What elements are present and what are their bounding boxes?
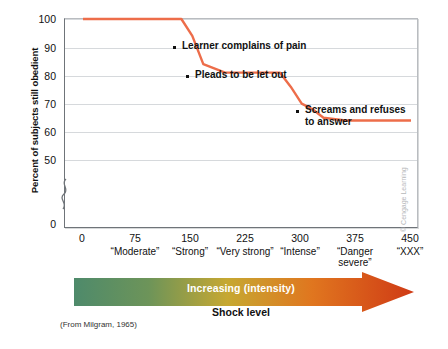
arrow-label-increasing: Increasing (intensity) bbox=[64, 282, 418, 294]
source-citation: (From Milgram, 1965) bbox=[60, 320, 137, 329]
annotation-marker-3 bbox=[296, 110, 299, 113]
annotation-pleads-to-be-let-out: Pleads to be let out bbox=[195, 69, 287, 81]
y-tick-0: 0 bbox=[20, 218, 56, 230]
annotation-screams-and-refuses: Screams and refuses to answer bbox=[305, 104, 406, 127]
y-tick-60: 60 bbox=[20, 126, 56, 138]
y-tick-80: 80 bbox=[20, 70, 56, 82]
y-tick-90: 90 bbox=[20, 42, 56, 54]
shock-level-caption: Shock level bbox=[64, 306, 418, 318]
y-tick-50: 50 bbox=[20, 154, 56, 166]
x-tick-450: 450 bbox=[375, 232, 445, 244]
copyright-credit: © Cengage Learning bbox=[400, 122, 407, 232]
y-tick-100: 100 bbox=[20, 13, 56, 25]
y-tick-70: 70 bbox=[20, 98, 56, 110]
milgram-obedience-figure: Percent of subjects still obedient 100 9… bbox=[0, 0, 448, 349]
annotation-marker-1 bbox=[173, 46, 176, 49]
axis-break-icon bbox=[57, 178, 73, 210]
x-label-xxx: “XXX” bbox=[368, 246, 448, 257]
annotation-marker-2 bbox=[186, 75, 189, 78]
annotation-learner-complains: Learner complains of pain bbox=[182, 40, 306, 52]
x-label-danger-line2: severe” bbox=[313, 257, 397, 268]
